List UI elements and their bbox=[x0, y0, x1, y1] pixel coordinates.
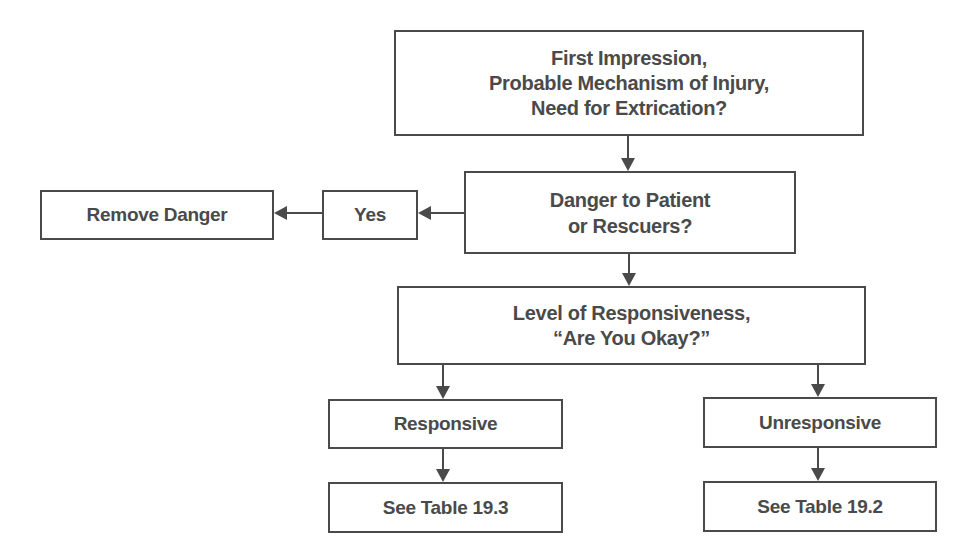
arrow-level-to-unresponsive bbox=[811, 365, 825, 397]
arrowhead-icon bbox=[274, 206, 287, 220]
arrow-responsive-to-table-19-3 bbox=[436, 449, 450, 482]
arrow-level-to-responsive bbox=[436, 365, 450, 399]
node-first-impression: First Impression, Probable Mechanism of … bbox=[394, 30, 864, 136]
node-label: Yes bbox=[354, 203, 386, 227]
arrowhead-icon bbox=[811, 468, 825, 481]
arrowhead-icon bbox=[436, 386, 450, 399]
arrow-first-impression-to-danger bbox=[621, 136, 635, 171]
node-danger: Danger to Patient or Rescuers? bbox=[464, 171, 796, 254]
node-label: Remove Danger bbox=[87, 203, 228, 227]
arrowhead-icon bbox=[621, 158, 635, 171]
arrow-unresponsive-to-table-19-2 bbox=[811, 448, 825, 481]
arrowhead-icon bbox=[436, 469, 450, 482]
arrowhead-icon bbox=[811, 384, 825, 397]
node-see-table-19-2: See Table 19.2 bbox=[703, 481, 937, 532]
node-label: See Table 19.3 bbox=[383, 496, 508, 520]
node-label: Responsive bbox=[394, 412, 498, 436]
node-remove-danger: Remove Danger bbox=[40, 190, 274, 240]
node-label: Danger to Patient or Rescuers? bbox=[550, 187, 710, 239]
arrowhead-icon bbox=[622, 273, 636, 286]
node-unresponsive: Unresponsive bbox=[703, 397, 937, 448]
node-label: First Impression, Probable Mechanism of … bbox=[489, 46, 769, 121]
arrow-danger-to-yes bbox=[418, 206, 464, 220]
node-see-table-19-3: See Table 19.3 bbox=[328, 482, 563, 533]
node-yes: Yes bbox=[322, 190, 418, 240]
arrow-danger-to-level bbox=[622, 254, 636, 286]
arrowhead-icon bbox=[418, 206, 431, 220]
node-label: See Table 19.2 bbox=[757, 495, 882, 519]
node-level-of-responsiveness: Level of Responsiveness, “Are You Okay?” bbox=[397, 286, 866, 365]
arrow-yes-to-remove-danger bbox=[274, 206, 322, 220]
node-label: Level of Responsiveness, “Are You Okay?” bbox=[513, 301, 750, 351]
node-label: Unresponsive bbox=[759, 411, 881, 435]
flowchart: First Impression, Probable Mechanism of … bbox=[0, 0, 957, 558]
node-responsive: Responsive bbox=[328, 399, 563, 449]
